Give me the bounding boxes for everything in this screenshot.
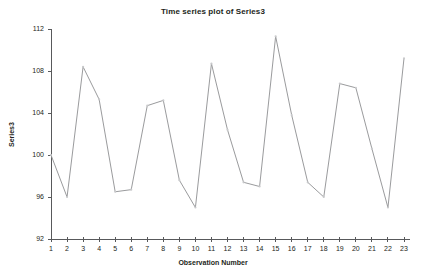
data-point — [146, 105, 148, 107]
series-line-series3 — [51, 36, 404, 207]
data-point — [339, 83, 341, 85]
y-tick-label: 100 — [18, 151, 44, 158]
data-point — [226, 129, 228, 131]
y-tick-label: 108 — [18, 67, 44, 74]
data-point — [242, 181, 244, 183]
data-point — [130, 189, 132, 191]
y-tick-label: 92 — [18, 235, 44, 242]
data-point — [162, 99, 164, 101]
plot-area — [0, 0, 426, 277]
data-point — [275, 35, 277, 37]
data-point — [323, 196, 325, 198]
data-point — [258, 185, 260, 187]
data-point — [82, 66, 84, 68]
data-point — [114, 191, 116, 193]
x-tick-label: 23 — [394, 245, 414, 252]
data-point — [210, 63, 212, 65]
y-tick-label: 112 — [18, 25, 44, 32]
data-point — [50, 154, 52, 156]
data-point — [307, 181, 309, 183]
data-point — [355, 87, 357, 89]
data-point — [387, 206, 389, 208]
data-point — [403, 57, 405, 59]
time-series-chart: Time series plot of Series3 Series3 Obse… — [0, 0, 426, 277]
data-point — [371, 148, 373, 150]
series-group — [50, 35, 405, 208]
y-axis-title: Series3 — [8, 122, 15, 147]
y-tick-label: 96 — [18, 193, 44, 200]
data-point — [291, 114, 293, 116]
data-point — [178, 179, 180, 181]
x-axis-title: Observation Number — [0, 259, 426, 266]
data-point — [194, 206, 196, 208]
data-point — [98, 98, 100, 100]
data-point — [66, 196, 68, 198]
y-tick-label: 104 — [18, 109, 44, 116]
